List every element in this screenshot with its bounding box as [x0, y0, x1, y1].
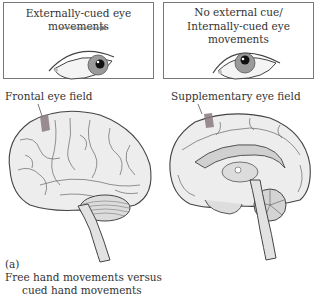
- panel-letter: (a): [5, 258, 19, 271]
- cue-arrow-icon: [60, 24, 108, 32]
- eye-right-gaze-icon: [46, 39, 121, 79]
- panel-title-line-1: No external cue/: [164, 6, 313, 19]
- lateral-brain-illustration: [0, 100, 160, 270]
- caption-line-1: Free hand movements versus: [5, 271, 162, 284]
- medial-brain-illustration: [160, 100, 317, 270]
- eye-up-gaze-icon: [210, 39, 285, 79]
- externally-cued-panel: Externally-cued eye movements: [3, 2, 154, 79]
- caption-line-2: cued hand movements: [22, 284, 142, 297]
- internally-cued-panel: No external cue/ Internally-cued eye mov…: [163, 2, 314, 79]
